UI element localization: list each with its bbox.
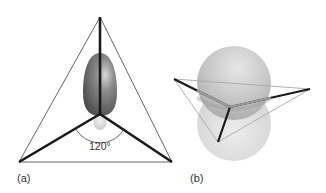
panel-a-label: (a) (17, 172, 30, 184)
bond-bottom-left (19, 114, 100, 162)
angle-label: 120° (89, 140, 111, 152)
orbital-figure (0, 0, 326, 193)
bond-bottom-right (100, 114, 172, 162)
panel-b-label: (b) (190, 172, 203, 184)
panel-b (174, 46, 310, 161)
